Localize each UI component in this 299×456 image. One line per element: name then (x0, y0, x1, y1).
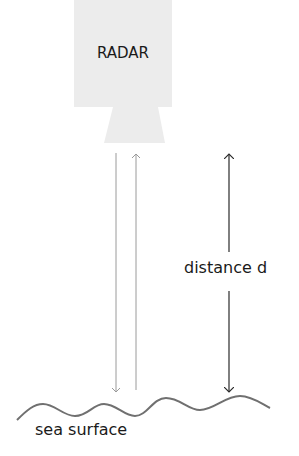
radar-label: RADAR (74, 44, 172, 62)
sea-surface-wave (17, 396, 270, 420)
radar-antenna (104, 107, 165, 143)
distance-label: distance d (184, 258, 267, 277)
radar-diagram (0, 0, 299, 456)
sea-surface-label: sea surface (35, 420, 127, 439)
